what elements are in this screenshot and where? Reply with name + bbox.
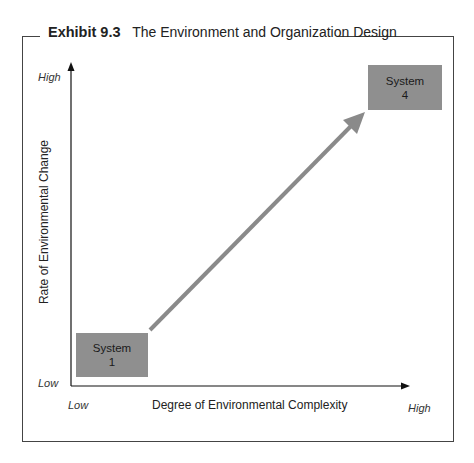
y-axis-arrowhead-icon bbox=[68, 62, 75, 71]
system-4-line1: System bbox=[386, 74, 424, 88]
system-1-line2: 1 bbox=[109, 355, 115, 369]
progression-arrow bbox=[150, 123, 354, 330]
x-axis-title: Degree of Environmental Complexity bbox=[152, 398, 347, 412]
x-axis-low-label: Low bbox=[68, 399, 88, 411]
x-axis-arrowhead-icon bbox=[401, 383, 410, 390]
y-axis-low-label: Low bbox=[38, 377, 58, 389]
system-4-box: System 4 bbox=[368, 65, 442, 110]
y-axis-high-label: High bbox=[38, 71, 61, 83]
system-1-box: System 1 bbox=[76, 333, 148, 377]
system-1-line1: System bbox=[93, 341, 131, 355]
system-4-line2: 4 bbox=[402, 88, 408, 102]
x-axis-high-label: High bbox=[408, 402, 431, 414]
y-axis-title: Rate of Environmental Change bbox=[37, 140, 51, 304]
